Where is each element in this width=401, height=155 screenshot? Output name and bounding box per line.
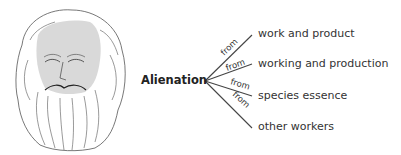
from-label-1: from	[218, 37, 239, 58]
branch-species-essence: species essence	[258, 89, 347, 102]
branch-working-and-production: working and production	[258, 57, 388, 70]
branch-other-workers: other workers	[258, 120, 334, 133]
branch-work-and-product: work and product	[258, 27, 355, 40]
center-node-alienation: Alienation	[141, 73, 207, 87]
from-label-4: from	[231, 89, 252, 110]
alienation-diagram: from from from from Alienation work and …	[0, 0, 401, 155]
